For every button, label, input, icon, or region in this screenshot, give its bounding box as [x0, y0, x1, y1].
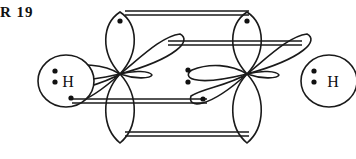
lobe-left-sigma-c: [120, 71, 152, 77]
pair-h-right-dot-upper: [311, 68, 316, 73]
lobe-right-sigma-h: [247, 71, 279, 77]
pair-h-left-dot-upper: [52, 68, 57, 73]
electron-lower-right-lobe-dot: [200, 96, 205, 101]
h-left-label: H: [62, 73, 74, 90]
electron-top-right-dot: [244, 18, 249, 23]
pair-cc-dot-upper: [185, 67, 190, 72]
pair-cc-dot-lower: [185, 79, 190, 84]
electron-lower-left-lobe-dot: [68, 95, 73, 100]
acetylene-orbital-svg: H H: [0, 0, 356, 159]
pair-h-right-dot-lower: [311, 79, 316, 84]
electron-top-left-dot: [117, 18, 122, 23]
h-right-label: H: [327, 73, 339, 90]
lobe-group: [38, 12, 356, 143]
pair-h-left-dot-lower: [52, 79, 57, 84]
orbital-diagram-figure: R 19: [0, 0, 356, 159]
